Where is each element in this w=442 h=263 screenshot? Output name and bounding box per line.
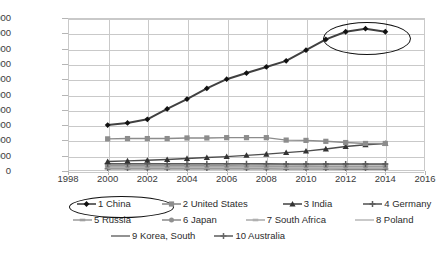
legend-marker-icon [282, 199, 303, 209]
legend-item[interactable]: 7 South Africa [245, 212, 326, 228]
x-axis-tick [425, 171, 426, 175]
data-point-marker [165, 136, 170, 141]
x-tick-label: 2000 [97, 174, 118, 184]
legend-label: 7 South Africa [267, 215, 326, 225]
data-point-marker [80, 219, 86, 222]
data-point-marker [224, 135, 229, 140]
x-tick-label: 2002 [137, 174, 158, 184]
data-point-marker [169, 218, 174, 223]
data-point-marker [284, 137, 289, 142]
chart-legend: 1 China2 United States3 India4 Germany 5… [60, 196, 438, 244]
x-tick-label: 2014 [375, 174, 396, 184]
data-point-marker [84, 201, 90, 207]
legend-label: 2 United States [183, 199, 248, 209]
x-tick-label: 2016 [414, 174, 435, 184]
legend-marker-icon [72, 215, 93, 225]
legend-label: 5 Russia [94, 215, 131, 225]
legend-item[interactable]: 9 Korea, South [110, 228, 195, 244]
data-point-marker [323, 139, 328, 144]
legend-row: 5 Russia6 Japan7 South Africa8 Poland [60, 212, 438, 228]
data-point-marker [125, 136, 130, 141]
legend-marker-icon [110, 231, 131, 241]
chart-container: 0500000100000015000002000000250000030000… [0, 0, 442, 263]
data-point-marker [370, 201, 376, 207]
gridline-horizontal [69, 172, 424, 173]
x-tick-label: 2010 [295, 174, 316, 184]
legend-label: 6 Japan [183, 215, 217, 225]
data-point-marker [244, 135, 249, 140]
data-point-marker [363, 26, 369, 32]
legend-label: 8 Poland [376, 215, 414, 225]
legend-label: 1 China [98, 199, 131, 209]
data-point-marker [343, 29, 349, 35]
data-point-marker [204, 135, 209, 140]
legend-marker-icon [354, 215, 375, 225]
legend-label: 9 Korea, South [132, 231, 195, 241]
legend-marker-icon [76, 199, 97, 209]
legend-item[interactable]: 4 Germany [362, 196, 431, 212]
legend-item[interactable]: 2 United States [161, 196, 248, 212]
data-point-marker [383, 141, 388, 146]
data-point-marker [105, 122, 111, 128]
x-tick-label: 2006 [216, 174, 237, 184]
x-tick-label: 2012 [335, 174, 356, 184]
data-point-marker [169, 201, 174, 206]
legend-item[interactable]: 10 Australia [213, 228, 285, 244]
data-point-marker [382, 29, 388, 35]
data-point-marker [125, 120, 131, 126]
legend-item[interactable]: 6 Japan [161, 212, 217, 228]
data-point-marker [264, 135, 269, 140]
legend-item[interactable]: 8 Poland [354, 212, 414, 228]
data-point-marker [221, 233, 227, 239]
data-point-marker [363, 141, 368, 146]
x-tick-label: 2008 [256, 174, 277, 184]
series-layer [68, 18, 425, 171]
legend-label: 10 Australia [235, 231, 285, 241]
legend-row: 9 Korea, South10 Australia [60, 228, 438, 244]
series-line [108, 29, 386, 125]
x-tick-label: 2004 [176, 174, 197, 184]
legend-item[interactable]: 5 Russia [72, 212, 131, 228]
data-point-marker [145, 136, 150, 141]
legend-marker-icon [161, 215, 182, 225]
legend-marker-icon [161, 199, 182, 209]
data-point-marker [252, 219, 258, 222]
data-point-marker [184, 135, 189, 140]
data-point-marker [244, 70, 250, 76]
legend-row: 1 China2 United States3 India4 Germany [60, 196, 438, 212]
data-point-marker [263, 64, 269, 70]
legend-item[interactable]: 3 India [282, 196, 333, 212]
data-point-marker [343, 140, 348, 145]
legend-marker-icon [362, 199, 383, 209]
legend-label: 4 Germany [384, 199, 431, 209]
data-point-marker [105, 136, 110, 141]
legend-marker-icon [245, 215, 266, 225]
data-point-marker [303, 138, 308, 143]
legend-label: 3 India [304, 199, 333, 209]
legend-marker-icon [213, 231, 234, 241]
legend-item[interactable]: 1 China [76, 196, 131, 212]
x-tick-label: 1998 [57, 174, 78, 184]
